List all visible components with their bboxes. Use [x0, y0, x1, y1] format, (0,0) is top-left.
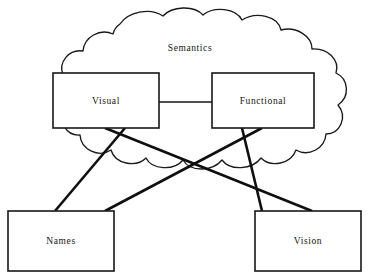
node-functional[interactable]: Functional	[212, 73, 314, 128]
node-visual[interactable]: Visual	[53, 73, 159, 128]
semantics-cloud-label: Semantics	[168, 43, 212, 53]
diagram-canvas: Semantics Visual Functional Names	[0, 0, 370, 277]
node-names-label: Names	[46, 236, 75, 246]
node-functional-label: Functional	[240, 96, 287, 106]
node-visual-label: Visual	[92, 96, 120, 106]
node-vision[interactable]: Vision	[255, 211, 361, 271]
node-names[interactable]: Names	[8, 211, 114, 271]
node-vision-label: Vision	[294, 236, 322, 246]
semantics-diagram: Semantics Visual Functional Names	[0, 0, 370, 277]
